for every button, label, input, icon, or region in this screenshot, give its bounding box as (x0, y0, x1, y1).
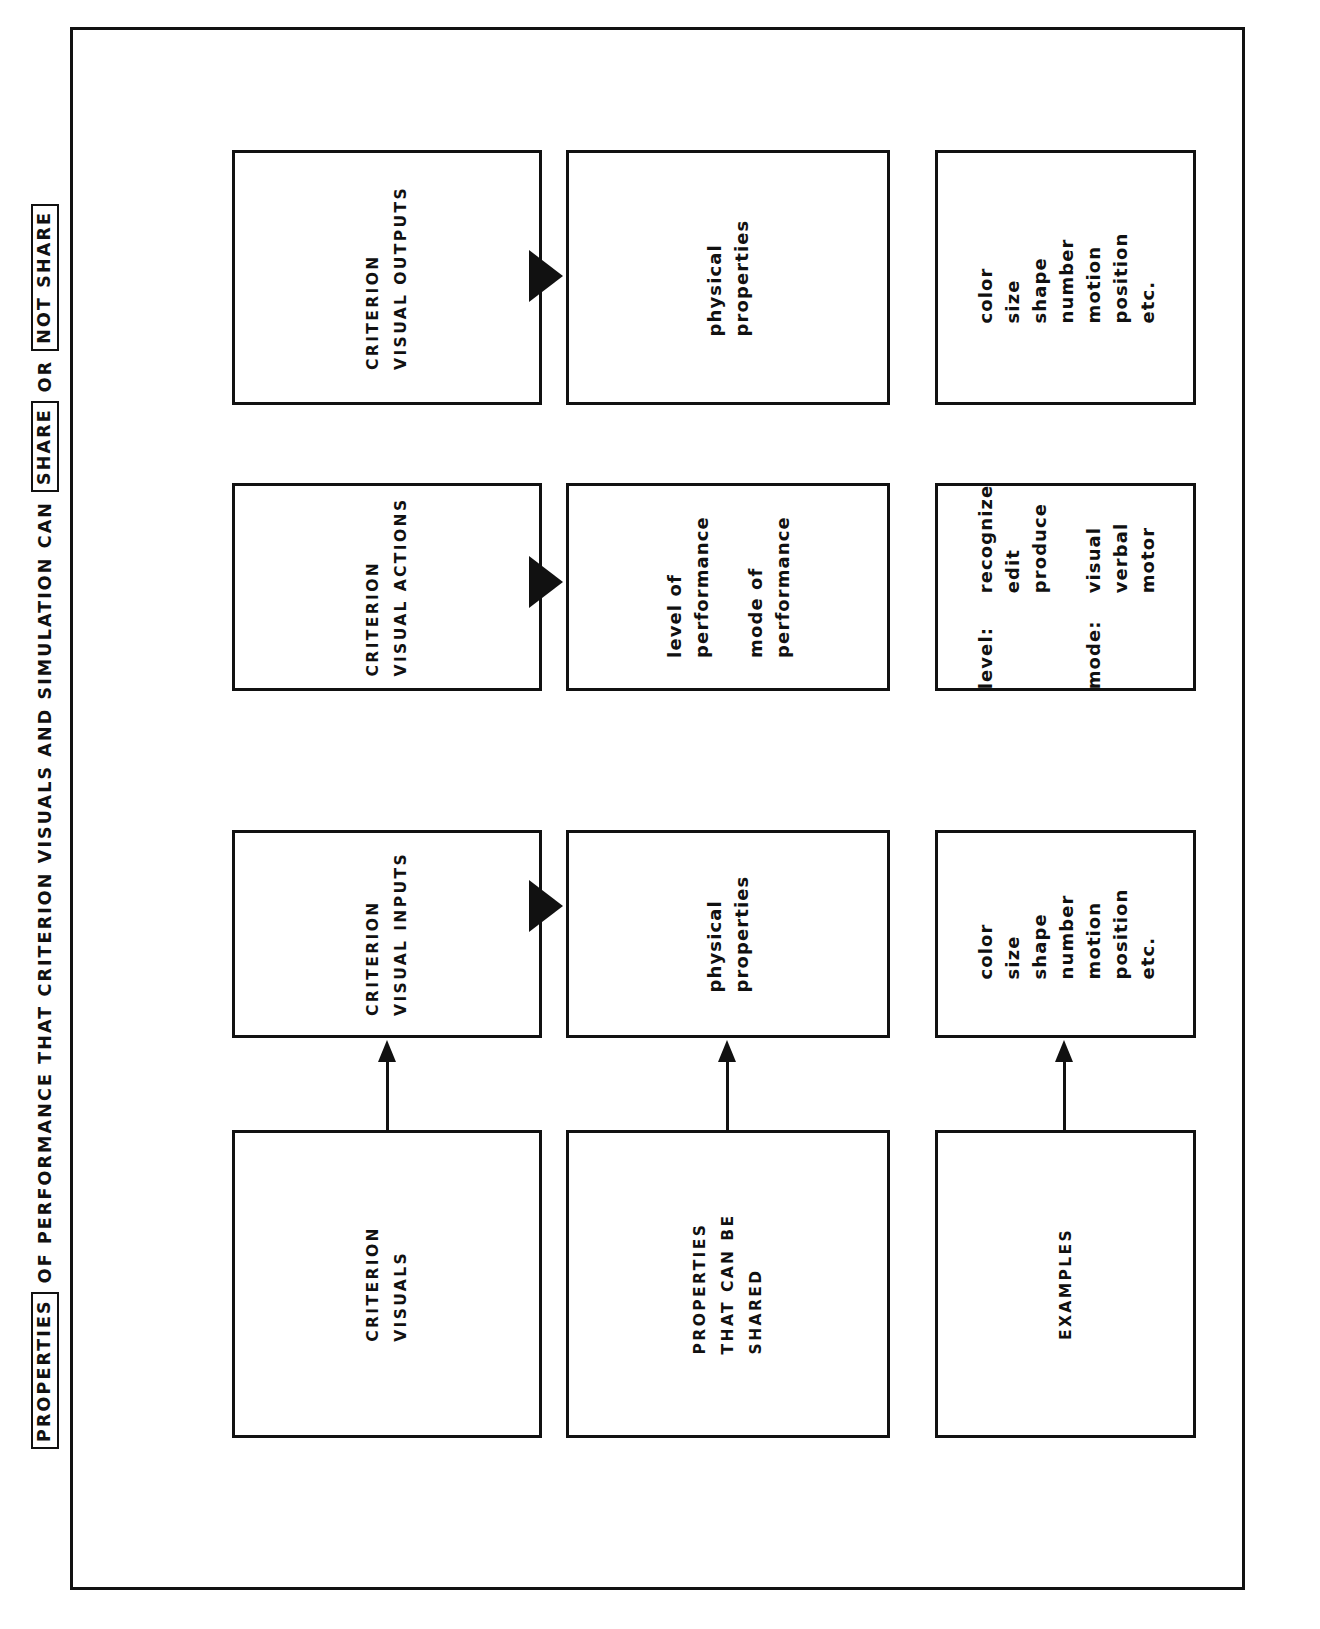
level-mode-list: level: recognize edit produce mode: visu… (971, 485, 1160, 690)
mode-group: mode: visual verbal motor (1079, 485, 1160, 690)
figure-caption: PROPERTIES OF PERFORMANCE THAT CRITERION… (25, 19, 65, 1449)
node-criterion-visual-outputs-label: CRITERION VISUAL OUTPUTS (359, 186, 415, 370)
node-criterion-visual-actions: CRITERION VISUAL ACTIONS (232, 483, 542, 691)
caption-segment-properties: PROPERTIES (31, 1292, 60, 1449)
node-performance-actions: level of performance mode of performance (566, 483, 890, 691)
node-examples-outputs: color size shape number motion position … (935, 150, 1196, 405)
connector-line-properties-shared (726, 1060, 729, 1130)
node-physical-properties-outputs-label: physical properties (701, 219, 755, 336)
caption-segment-not-share: NOT SHARE (31, 204, 60, 351)
node-properties-that-can-be-shared-label: PROPERTIES THAT CAN BE SHARED (686, 1214, 770, 1355)
triangle-pointer-outputs-icon (529, 250, 563, 302)
level-group: level: recognize edit produce (971, 485, 1052, 690)
caption-segment-or: OR (35, 360, 55, 393)
level-mode-spacer (1052, 485, 1079, 690)
node-criterion-visual-actions-label: CRITERION VISUAL ACTIONS (359, 498, 415, 677)
level-items: recognize edit produce (971, 485, 1052, 594)
node-criterion-visuals: CRITERION VISUALS (232, 1130, 542, 1438)
node-examples: EXAMPLES (935, 1130, 1196, 1438)
caption-segment-main: OF PERFORMANCE THAT CRITERION VISUALS AN… (35, 501, 55, 1283)
triangle-pointer-inputs-icon (529, 880, 563, 932)
node-criterion-visual-outputs: CRITERION VISUAL OUTPUTS (232, 150, 542, 405)
node-physical-properties-inputs: physical properties (566, 830, 890, 1038)
node-criterion-visual-inputs: CRITERION VISUAL INPUTS (232, 830, 542, 1038)
connector-arrowhead-criterion-visuals-icon (378, 1040, 396, 1062)
node-examples-label: EXAMPLES (1052, 1228, 1080, 1340)
node-examples-inputs-list: color size shape number motion position … (971, 889, 1160, 980)
caption-segment-share: SHARE (31, 401, 60, 492)
triangle-pointer-actions-icon (529, 556, 563, 608)
node-properties-that-can-be-shared: PROPERTIES THAT CAN BE SHARED (566, 1130, 890, 1438)
connector-line-examples (1063, 1060, 1066, 1130)
level-label: level: (971, 593, 998, 689)
connector-arrowhead-properties-shared-icon (718, 1040, 736, 1062)
mode-label: mode: (1079, 593, 1106, 689)
node-physical-properties-inputs-label: physical properties (701, 876, 755, 993)
node-criterion-visual-inputs-label: CRITERION VISUAL INPUTS (359, 852, 415, 1016)
node-examples-outputs-list: color size shape number motion position … (971, 232, 1160, 323)
node-criterion-visuals-label: CRITERION VISUALS (359, 1226, 415, 1342)
connector-line-criterion-visuals (386, 1060, 389, 1130)
mode-items: visual verbal motor (1079, 523, 1160, 594)
node-physical-properties-outputs: physical properties (566, 150, 890, 405)
node-performance-actions-label: level of performance mode of performance (661, 516, 796, 658)
connector-arrowhead-examples-icon (1055, 1040, 1073, 1062)
node-level-mode-examples: level: recognize edit produce mode: visu… (935, 483, 1196, 691)
node-examples-inputs: color size shape number motion position … (935, 830, 1196, 1038)
